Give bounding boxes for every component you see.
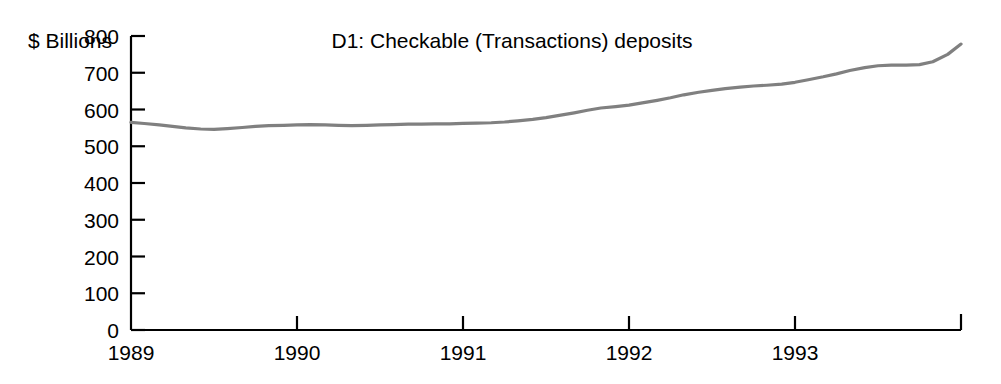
- y-tick-label: 500: [84, 135, 119, 158]
- y-tick-label: 0: [107, 319, 119, 342]
- x-tick-label: 1989: [108, 341, 155, 364]
- line-chart: D1: Checkable (Transactions) deposits $ …: [0, 0, 1001, 384]
- chart-background: [0, 0, 1001, 384]
- x-tick-label: 1991: [440, 341, 487, 364]
- y-tick-label: 300: [84, 209, 119, 232]
- y-tick-label: 800: [84, 25, 119, 48]
- y-tick-label: 400: [84, 172, 119, 195]
- y-tick-label: 700: [84, 62, 119, 85]
- y-tick-label: 600: [84, 99, 119, 122]
- y-tick-label: 200: [84, 246, 119, 269]
- x-tick-label: 1992: [606, 341, 653, 364]
- chart-container: D1: Checkable (Transactions) deposits $ …: [0, 0, 1001, 384]
- x-tick-label: 1993: [772, 341, 819, 364]
- chart-title: D1: Checkable (Transactions) deposits: [331, 29, 692, 52]
- x-tick-label: 1990: [274, 341, 321, 364]
- y-tick-label: 100: [84, 282, 119, 305]
